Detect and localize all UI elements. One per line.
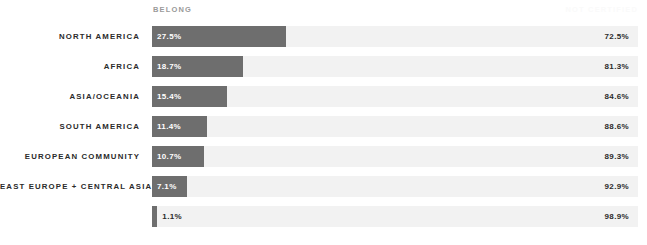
chart-header: BELONG NOT CERTIFIED xyxy=(0,0,647,22)
row-value-not-certified: 89.3% xyxy=(152,146,638,167)
row-bar-track: 1.1%98.9% xyxy=(152,206,638,227)
row-bar-track: 18.7%81.3% xyxy=(152,56,638,77)
row-value-not-certified: 84.6% xyxy=(152,86,638,107)
stacked-bar-chart: BELONG NOT CERTIFIED NORTH AMERICA27.5%7… xyxy=(0,0,647,245)
row-category-label: AFRICA xyxy=(0,56,140,77)
row-value-not-certified: 88.6% xyxy=(152,116,638,137)
row-value-not-certified: 92.9% xyxy=(152,176,638,197)
chart-row: ASIA/OCEANIA15.4%84.6% xyxy=(0,86,647,116)
row-value-not-certified: 98.9% xyxy=(152,206,638,227)
legend-label-belong: BELONG xyxy=(153,5,192,14)
row-bar-track: 15.4%84.6% xyxy=(152,86,638,107)
row-bar-track: 7.1%92.9% xyxy=(152,176,638,197)
row-bar-track: 27.5%72.5% xyxy=(152,26,638,47)
chart-row: 1.1%98.9% xyxy=(0,206,647,236)
row-category-label: EAST EUROPE + CENTRAL ASIA xyxy=(0,176,140,197)
row-category-label: SOUTH AMERICA xyxy=(0,116,140,137)
row-bar-track: 10.7%89.3% xyxy=(152,146,638,167)
chart-row: SOUTH AMERICA11.4%88.6% xyxy=(0,116,647,146)
chart-rows: NORTH AMERICA27.5%72.5%AFRICA18.7%81.3%A… xyxy=(0,26,647,236)
row-value-not-certified: 72.5% xyxy=(152,26,638,47)
row-category-label: EUROPEAN COMMUNITY xyxy=(0,146,140,167)
chart-row: NORTH AMERICA27.5%72.5% xyxy=(0,26,647,56)
row-category-label: ASIA/OCEANIA xyxy=(0,86,140,107)
row-value-not-certified: 81.3% xyxy=(152,56,638,77)
row-bar-track: 11.4%88.6% xyxy=(152,116,638,137)
chart-row: EAST EUROPE + CENTRAL ASIA7.1%92.9% xyxy=(0,176,647,206)
row-category-label: NORTH AMERICA xyxy=(0,26,140,47)
legend-label-not-certified: NOT CERTIFIED xyxy=(566,5,638,14)
chart-row: AFRICA18.7%81.3% xyxy=(0,56,647,86)
chart-row: EUROPEAN COMMUNITY10.7%89.3% xyxy=(0,146,647,176)
row-category-label xyxy=(0,206,140,227)
